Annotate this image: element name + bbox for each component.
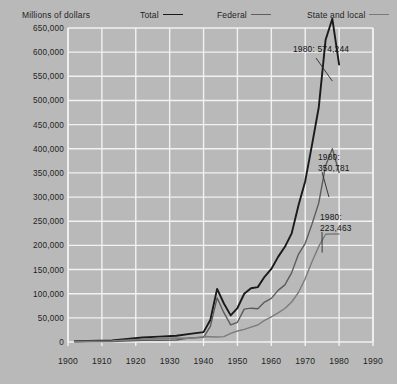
annotation-federal-year: 1980: bbox=[318, 152, 340, 162]
annotation-state-year: 1980: bbox=[320, 212, 342, 222]
plot-area bbox=[0, 0, 397, 384]
annotation-state-amount: 223,463 bbox=[320, 223, 352, 233]
annotation-state: 1980:223,463 bbox=[320, 212, 352, 233]
leader-federal bbox=[322, 172, 329, 197]
annotation-federal: 1980:1980:350,781 bbox=[318, 152, 350, 173]
annotation-total: 1980: 574,244 bbox=[293, 44, 349, 55]
annotation-federal-amount: 350,781 bbox=[318, 163, 350, 173]
series-line-total bbox=[75, 19, 339, 341]
chart-container: Millions of dollars Total Federal State … bbox=[0, 0, 397, 384]
